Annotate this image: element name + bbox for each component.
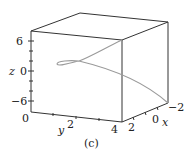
space-curve <box>57 40 168 103</box>
z-tick-0: 0 <box>20 66 27 77</box>
x-tick-0: 0 <box>152 114 159 125</box>
y-tick-4: 4 <box>111 124 118 135</box>
y-axis-label: y <box>58 125 64 136</box>
y-tick-0: 0 <box>22 113 29 124</box>
z-tick-neg6: −6 <box>11 96 27 107</box>
y-tick-2: 2 <box>67 119 74 130</box>
z-tick-6: 6 <box>16 36 23 47</box>
bounding-box <box>31 13 168 122</box>
x-tick-2: 2 <box>128 122 135 133</box>
3d-plot <box>0 0 192 157</box>
x-axis-label: x <box>162 117 168 128</box>
figure-caption: (c) <box>84 138 99 149</box>
x-tick-neg2: −2 <box>168 102 184 113</box>
y-axis-ticks <box>53 113 99 121</box>
z-axis-label: z <box>9 66 15 77</box>
